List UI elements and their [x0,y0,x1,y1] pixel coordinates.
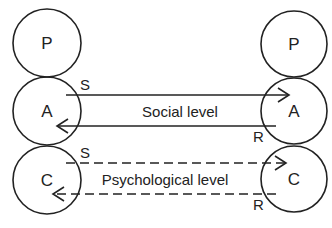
psychological-level-label: Psychological level [102,171,229,188]
right-parent-label: P [288,35,299,54]
right-adult-label: A [288,102,300,121]
right-child-label: C [288,170,300,189]
social-level-label: Social level [142,103,218,120]
ego-state-diagram: P A C P A C S R S R Social level Psychol… [0,0,332,228]
psychological-stimulus-arrow [66,156,286,170]
left-child-label: C [41,171,53,190]
psychological-response-label: R [253,196,264,213]
social-stimulus-arrow [66,88,289,102]
left-adult-label: A [41,102,53,121]
left-parent-label: P [41,34,52,53]
psychological-stimulus-label: S [80,144,90,161]
social-stimulus-label: S [80,76,90,93]
social-response-label: R [253,128,264,145]
social-response-arrow [57,119,276,133]
psychological-response-arrow [53,187,276,201]
